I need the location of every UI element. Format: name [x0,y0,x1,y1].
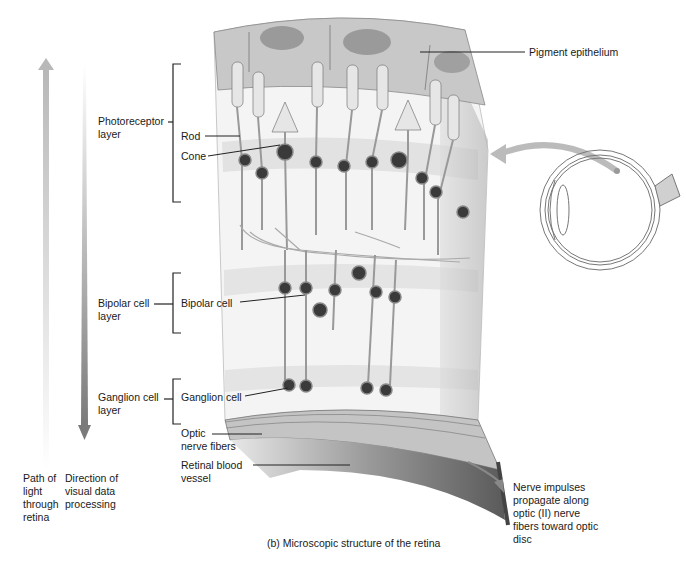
retinal-blood-vessel-label: Retinal bloodvessel [181,459,242,485]
cone-label: Cone [181,150,206,163]
pigment-epithelium-label: Pigment epithelium [529,46,618,59]
nerve-impulses-label: Nerve impulsespropagate alongoptic (II) … [513,481,598,546]
light-path-label: Path oflightthroughretina [23,472,59,524]
light-path-arrow-icon [38,58,54,470]
eye-to-retina-arrowhead-icon [490,144,506,164]
optic-nerve-fibers-label: Opticnerve fibers [181,427,236,453]
figure-caption: (b) Microscopic structure of the retina [267,537,440,550]
ganglion-cell-label: Ganglion cell [181,391,242,404]
ganglion-cell-layer-label: Ganglion celllayer [98,391,159,417]
photoreceptor-layer-label: Photoreceptorlayer [98,115,164,141]
bipolar-cell-label: Bipolar cell [181,297,232,310]
rod-label: Rod [181,130,200,143]
data-processing-label: Direction ofvisual dataprocessing [65,472,118,511]
bipolar-cell-layer-label: Bipolar celllayer [98,297,149,323]
retina-section [214,18,508,525]
data-processing-arrow-icon [78,65,91,440]
